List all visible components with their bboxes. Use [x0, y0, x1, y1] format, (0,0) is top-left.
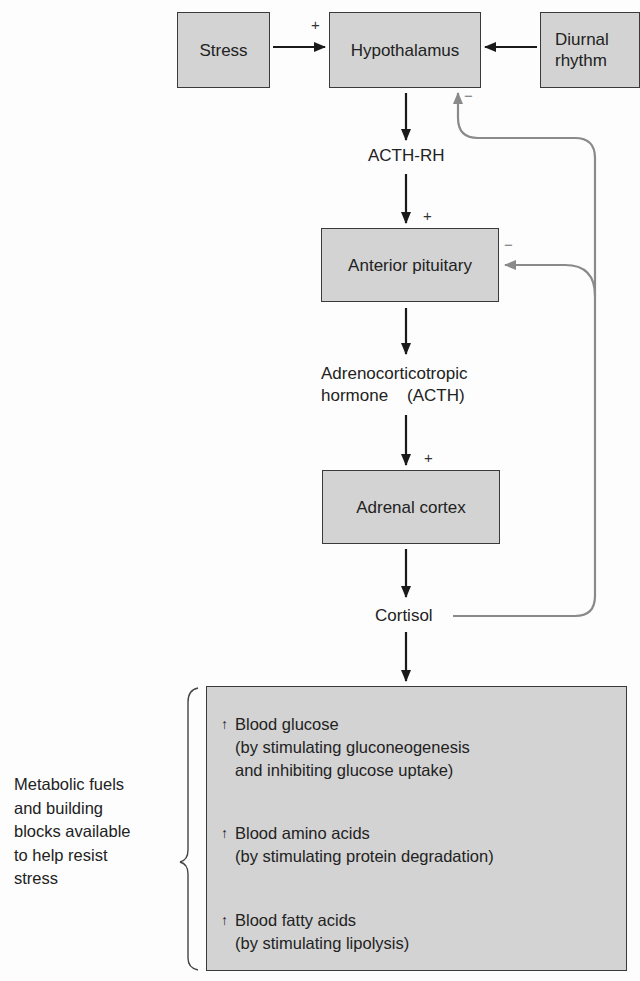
- node-hypothalamus: Hypothalamus: [329, 12, 481, 88]
- node-diurnal-rhythm: Diurnal rhythm: [540, 12, 640, 88]
- node-anterior-pituitary: Anterior pituitary: [321, 228, 499, 302]
- side-note-metabolic-fuels: Metabolic fuels and building blocks avai…: [14, 773, 130, 891]
- side-note-line: stress: [14, 867, 130, 891]
- sign-minus-pituitary: −: [504, 237, 513, 252]
- effect-detail: (by stimulating lipolysis): [235, 932, 409, 955]
- sign-plus-stress: +: [311, 17, 320, 32]
- side-note-line: blocks available: [14, 820, 130, 844]
- label-cortisol: Cortisol: [375, 605, 433, 626]
- up-arrow-icon: ↑: [221, 822, 228, 845]
- effect-blood-amino-acids: ↑ Blood amino acids (by stimulating prot…: [235, 822, 494, 868]
- node-adrenal-cortex: Adrenal cortex: [322, 470, 500, 544]
- effect-blood-glucose: ↑ Blood glucose (by stimulating gluconeo…: [235, 713, 470, 782]
- node-diurnal-label-2: rhythm: [555, 50, 609, 71]
- effect-blood-fatty-acids: ↑ Blood fatty acids (by stimulating lipo…: [235, 909, 409, 955]
- label-acth-line-1: Adrenocorticotropic: [321, 363, 467, 385]
- node-hypothalamus-label: Hypothalamus: [351, 40, 460, 61]
- label-acth-rh: ACTH-RH: [368, 145, 445, 166]
- feedback-branch-pituitary: [505, 265, 595, 296]
- sign-minus-hypothalamus: −: [464, 88, 473, 103]
- node-stress-label: Stress: [199, 40, 247, 61]
- effect-detail: and inhibiting glucose uptake): [235, 759, 470, 782]
- up-arrow-icon: ↑: [221, 713, 228, 736]
- sign-plus-adrenal: +: [424, 450, 433, 465]
- node-stress: Stress: [177, 12, 270, 88]
- effect-detail: (by stimulating gluconeogenesis: [235, 736, 470, 759]
- label-acth-line-2: hormone (ACTH): [321, 385, 467, 407]
- effects-box: ↑ Blood glucose (by stimulating gluconeo…: [206, 686, 627, 971]
- label-acth: Adrenocorticotropic hormone (ACTH): [321, 363, 467, 407]
- effect-title: Blood fatty acids: [235, 909, 409, 932]
- effect-detail: (by stimulating protein degradation): [235, 845, 494, 868]
- up-arrow-icon: ↑: [221, 909, 228, 932]
- sign-plus-pituitary: +: [423, 208, 432, 223]
- side-note-line: to help resist: [14, 844, 130, 868]
- node-anterior-pituitary-label: Anterior pituitary: [348, 255, 472, 276]
- effect-title: Blood glucose: [235, 713, 470, 736]
- brace: [180, 688, 198, 970]
- node-diurnal-label-1: Diurnal: [555, 29, 609, 50]
- effect-title: Blood amino acids: [235, 822, 494, 845]
- side-note-line: Metabolic fuels: [14, 773, 130, 797]
- node-adrenal-cortex-label: Adrenal cortex: [356, 497, 466, 518]
- side-note-line: and building: [14, 797, 130, 821]
